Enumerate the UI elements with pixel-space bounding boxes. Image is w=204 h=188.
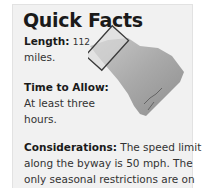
south-carolina-map-icon [88, 22, 192, 118]
length-value: 112 [73, 37, 90, 47]
considerations-text-1: The speed limit [117, 141, 201, 153]
page-title: Quick Facts [23, 9, 143, 31]
considerations-line1: Considerations: The speed limit [24, 140, 201, 155]
time-to-allow-line1: At least three [24, 96, 95, 111]
considerations-label: Considerations: [24, 141, 117, 153]
length-label: Length: [24, 35, 70, 47]
length-line: Length: 112 [24, 34, 90, 50]
time-to-allow-heading: Time to Allow: [24, 81, 109, 93]
considerations-line3: only seasonal restrictions are on [24, 172, 195, 187]
time-to-allow-label: Time to Allow: [24, 80, 109, 95]
time-to-allow-line2: hours. [24, 112, 57, 127]
length-unit: miles. [24, 50, 55, 65]
considerations-line2: along the byway is 50 mph. The [24, 156, 193, 171]
